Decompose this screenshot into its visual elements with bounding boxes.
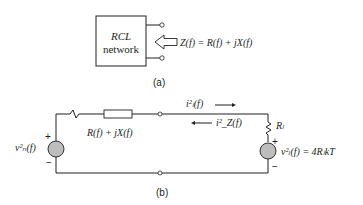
source-plus: + [45,132,51,142]
arrow-left-icon [191,121,212,125]
load-resistor-icon [266,114,271,142]
rcl-network-label: RCL network [96,30,146,55]
current-load-label: i²ₗ(f) [186,99,203,109]
load-resistor-label: Rₗ [276,121,284,131]
rcl-text: RCL [96,30,146,43]
current-z-label: i²_Z(f) [216,118,242,128]
terminal-top-a [160,23,164,27]
impedance-equation-a: Z(f) = R(f) + jX(f) [180,38,252,48]
arrow-right-icon [215,103,236,107]
terminal-bottom-a [160,56,164,60]
caption-a: (a) [153,77,165,88]
impedance-box [104,110,132,118]
caption-b: (b) [156,187,168,198]
network-text: network [96,43,146,56]
impedance-label-b: R(f) + jX(f) [87,128,133,138]
noise-source-icon [48,141,64,157]
load-plus: + [272,137,278,147]
circuit-diagram [0,0,363,205]
terminal-top-b [158,112,162,116]
terminal-bottom-b [158,171,162,175]
noise-source-label: v²ₙ(f) [15,143,36,153]
hollow-arrow-icon [155,35,177,49]
source-minus: − [46,158,52,168]
load-minus: − [272,162,278,172]
load-source-label: v²ₗ(f) = 4RₗkT [281,147,335,157]
